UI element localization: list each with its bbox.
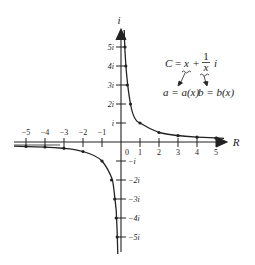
- equation-lhs: C: [165, 57, 173, 69]
- y-tick-label: 2i: [108, 100, 114, 109]
- x-tick-label: −3: [60, 128, 69, 137]
- a-definition-label: a = a(x): [163, 86, 199, 99]
- equation: C = x + 1 x i: [165, 50, 217, 73]
- equation-real-term: x: [183, 57, 189, 69]
- x-tick-label: −4: [41, 128, 50, 137]
- fraction-denominator: x: [203, 61, 209, 73]
- y-tick-label: 3i: [107, 81, 114, 90]
- x-tick-label: −5: [22, 128, 31, 137]
- y-tick-label: 5i: [108, 43, 114, 52]
- real-axis-label: R: [232, 136, 240, 148]
- equation-imag-unit: i: [214, 57, 217, 69]
- b-definition-label: b = b(x): [198, 86, 234, 99]
- annotation-arrows: [178, 71, 209, 86]
- x-tick-label: 0: [125, 148, 129, 157]
- x-tick-label: 1: [138, 148, 142, 157]
- imaginary-axis-label: i: [117, 14, 120, 26]
- y-tick-label: −4i: [128, 214, 140, 223]
- y-tick-label: 4i: [108, 62, 114, 71]
- y-tick-label: −3i: [128, 195, 140, 204]
- equation-plus: +: [193, 57, 199, 69]
- x-tick-label: 5: [214, 148, 218, 157]
- equation-equals: =: [175, 57, 181, 69]
- x-tick-label: 3: [176, 148, 180, 157]
- y-tick-label: −2i: [128, 176, 140, 185]
- x-tick-label: 2: [157, 148, 161, 157]
- x-tick-label: −1: [98, 128, 107, 137]
- hyperbola-diagram: −5 −4 −3 −2 −1 0 1 2 3 4 5 i 2i 3i 4i 5i…: [0, 0, 255, 265]
- x-tick-label: −2: [79, 128, 88, 137]
- y-tick-label: −i: [128, 157, 136, 166]
- x-tick-label: 4: [195, 148, 199, 157]
- y-tick-label: −5i: [128, 233, 140, 242]
- y-tick-label: i: [112, 119, 114, 128]
